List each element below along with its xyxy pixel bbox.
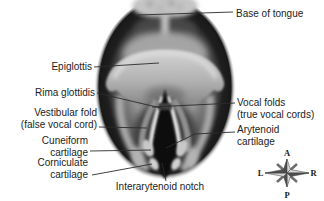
label-text-line2: cartilage — [37, 169, 88, 181]
label-corniculate-cartilage: Corniculate cartilage — [37, 157, 88, 180]
label-text-line1: Vestibular fold — [21, 107, 97, 119]
larynx-illustration — [92, 0, 240, 192]
label-text: Epiglottis — [51, 61, 92, 73]
label-text: Base of tongue — [236, 8, 303, 20]
figure: Base of tongue Epiglottis Rima glottidis… — [0, 0, 324, 201]
label-text-line2: (false vocal cord) — [21, 119, 97, 131]
label-rima-glottidis: Rima glottidis — [35, 87, 95, 99]
compass-star — [265, 159, 309, 187]
label-arytenoid-cartilage: Arytenoid cartilage — [237, 124, 279, 147]
compass-posterior-label: P — [284, 190, 289, 200]
label-text: Interarytenoid notch — [98, 181, 222, 193]
label-text-line1: Vocal folds — [237, 97, 314, 109]
label-text-line2: (true vocal cords) — [237, 109, 314, 121]
label-epiglottis: Epiglottis — [51, 61, 92, 73]
compass-right-label: R — [310, 168, 317, 178]
label-text-line1: Cuneiform — [42, 135, 88, 147]
label-text-line1: Corniculate — [37, 157, 88, 169]
label-interarytenoid-notch: Interarytenoid notch — [98, 181, 222, 193]
label-vestibular-fold: Vestibular fold (false vocal cord) — [21, 107, 97, 130]
compass-left-label: L — [258, 168, 264, 178]
glottis-inner-band — [158, 103, 172, 110]
label-text: Rima glottidis — [35, 87, 95, 99]
label-cuneiform-cartilage: Cuneiform cartilage — [42, 135, 88, 158]
orientation-compass: A P L R — [255, 146, 319, 200]
label-text-line1: Arytenoid — [237, 124, 279, 136]
compass-anterior-label: A — [284, 148, 291, 158]
label-base-of-tongue: Base of tongue — [236, 8, 303, 20]
label-vocal-folds: Vocal folds (true vocal cords) — [237, 97, 314, 120]
